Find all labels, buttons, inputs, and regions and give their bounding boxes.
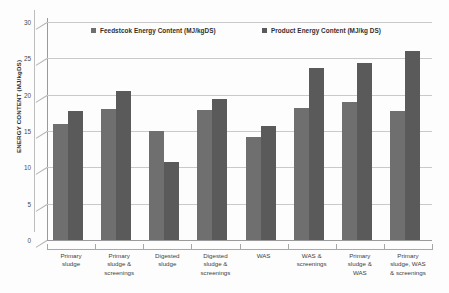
x-axis-label-line: screenings <box>95 269 143 277</box>
bar-product <box>261 126 276 240</box>
plot-area: 051015202530 <box>47 22 432 240</box>
legend-item: Feedstcok Energy Content (MJ/kgDS) <box>91 27 216 34</box>
bar-product <box>309 68 324 240</box>
bar-group <box>384 22 432 240</box>
x-axis-label-line: sludge <box>47 260 95 268</box>
grid-tick-10 <box>36 167 48 175</box>
y-tick-label: 30 <box>24 19 31 26</box>
x-axis-label-line: screenings <box>191 269 239 277</box>
x-axis-label: Primarysludge, WAS& screenings <box>384 252 432 277</box>
x-axis-label-line: WAS & <box>288 252 336 260</box>
x-axis-label-line: sludge, WAS <box>384 260 432 268</box>
bar-feedstock <box>246 137 261 240</box>
y-axis-back-line <box>34 10 35 232</box>
x-axis-label-line: sludge & <box>95 260 143 268</box>
legend-swatch-icon <box>262 28 267 33</box>
grid-tick-0 <box>36 240 48 248</box>
x-axis-label: WAS <box>240 252 288 260</box>
x-axis-label-line: Primary <box>95 252 143 260</box>
bar-group <box>191 22 239 240</box>
bar-group <box>143 22 191 240</box>
legend-label: Product Energy Content (MJ/kg DS) <box>271 27 381 34</box>
y-tick-label: 10 <box>24 164 31 171</box>
bar-group <box>336 22 384 240</box>
bar-product <box>212 99 227 240</box>
x-axis-label-line: WAS <box>336 269 384 277</box>
x-axis-label-line: sludge & <box>191 260 239 268</box>
x-tick <box>95 244 96 250</box>
x-axis-label-line: Primary <box>384 252 432 260</box>
x-axis-label: Digestedsludge <box>143 252 191 269</box>
bar-feedstock <box>53 124 68 240</box>
bar-group <box>240 22 288 240</box>
bar-product <box>405 51 420 240</box>
x-axis-label-line: Digested <box>191 252 239 260</box>
bar-feedstock <box>390 111 405 240</box>
x-tick <box>240 244 241 250</box>
x-axis-labels: PrimarysludgePrimarysludge &screeningsDi… <box>47 252 432 292</box>
x-axis <box>47 240 432 252</box>
x-tick <box>191 244 192 250</box>
x-tick <box>336 244 337 250</box>
y-tick-label: 20 <box>24 91 31 98</box>
x-tick <box>143 244 144 250</box>
bar-group <box>47 22 95 240</box>
legend-swatch-icon <box>91 28 96 33</box>
x-axis-label-line: Primary <box>336 252 384 260</box>
x-axis-label-line: sludge & <box>336 260 384 268</box>
x-axis-label-line: Digested <box>143 252 191 260</box>
energy-content-bar-chart: ENERGY CONTENT (MJ/kgDS) 051015202530 Pr… <box>0 0 449 293</box>
legend-item: Product Energy Content (MJ/kg DS) <box>262 27 381 34</box>
x-axis-label: WAS &screenings <box>288 252 336 269</box>
bar-group <box>95 22 143 240</box>
x-axis-label: Digestedsludge &screenings <box>191 252 239 277</box>
x-axis-label-line: sludge <box>143 260 191 268</box>
bar-feedstock <box>294 108 309 240</box>
bar-feedstock <box>101 109 116 240</box>
legend-label: Feedstcok Energy Content (MJ/kgDS) <box>100 27 216 34</box>
y-axis-title: ENERGY CONTENT (MJ/kgDS) <box>15 42 22 172</box>
bar-product <box>164 162 179 240</box>
grid-tick-25 <box>36 58 48 66</box>
grid-tick-5 <box>36 204 48 212</box>
y-tick-label: 5 <box>27 200 31 207</box>
x-tick <box>288 244 289 250</box>
x-axis-label: Primarysludge &WAS <box>336 252 384 277</box>
x-axis-label-line: WAS <box>240 252 288 260</box>
bar-product <box>68 111 83 240</box>
bar-feedstock <box>197 110 212 240</box>
grid-tick-15 <box>36 131 48 139</box>
x-tick <box>47 244 48 250</box>
y-tick-label: 25 <box>24 55 31 62</box>
x-axis-label-line: Primary <box>47 252 95 260</box>
grid-tick-30 <box>36 22 48 30</box>
grid-tick-20 <box>36 95 48 103</box>
bar-product <box>357 63 372 240</box>
x-axis-label-line: & screenings <box>384 269 432 277</box>
x-tick <box>432 244 433 250</box>
bars-layer <box>47 22 432 240</box>
bar-feedstock <box>149 131 164 240</box>
x-tick <box>384 244 385 250</box>
x-axis-label: Primarysludge <box>47 252 95 269</box>
chart-legend: Feedstcok Energy Content (MJ/kgDS)Produc… <box>47 27 432 41</box>
x-axis-label: Primarysludge &screenings <box>95 252 143 277</box>
y-tick-label: 0 <box>27 237 31 244</box>
bar-product <box>116 91 131 240</box>
bar-group <box>288 22 336 240</box>
bar-feedstock <box>342 102 357 240</box>
x-axis-label-line: screenings <box>288 260 336 268</box>
y-tick-label: 15 <box>24 128 31 135</box>
